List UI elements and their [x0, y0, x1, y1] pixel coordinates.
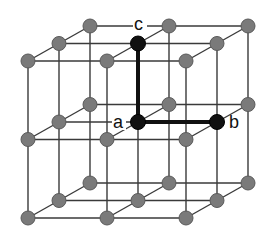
lattice-atom: [241, 98, 255, 112]
lattice-atom: [131, 194, 145, 208]
lattice-atom: [83, 176, 97, 190]
lattice-atom: [83, 98, 97, 112]
lattice-atoms: [21, 19, 255, 225]
lattice-atom: [52, 115, 66, 129]
lattice-atom: [100, 211, 114, 225]
lattice-atom: [241, 176, 255, 190]
lattice-atom: [52, 194, 66, 208]
lattice-atom: [162, 98, 176, 112]
vector-labels: c a b: [112, 14, 239, 132]
atom-c: [131, 36, 146, 51]
lattice-atom: [162, 19, 176, 33]
lattice-atom: [21, 211, 35, 225]
lattice-atom: [179, 54, 193, 68]
label-a: a: [113, 112, 124, 132]
lattice-atom: [210, 194, 224, 208]
lattice-atom: [21, 54, 35, 68]
cubic-lattice-diagram: c a b: [0, 0, 280, 237]
lattice-atom: [100, 133, 114, 147]
atom-a: [131, 115, 146, 130]
lattice-atom: [21, 133, 35, 147]
lattice-atom: [179, 133, 193, 147]
lattice-atom: [241, 19, 255, 33]
atom-b: [210, 115, 225, 130]
lattice-atom: [162, 176, 176, 190]
lattice-atom: [179, 211, 193, 225]
lattice-atom: [100, 54, 114, 68]
lattice-atom: [52, 37, 66, 51]
lattice-atom: [83, 19, 97, 33]
lattice-atom: [210, 37, 224, 51]
basis-vectors: [138, 44, 217, 123]
label-b: b: [229, 112, 239, 132]
label-c: c: [134, 14, 143, 34]
